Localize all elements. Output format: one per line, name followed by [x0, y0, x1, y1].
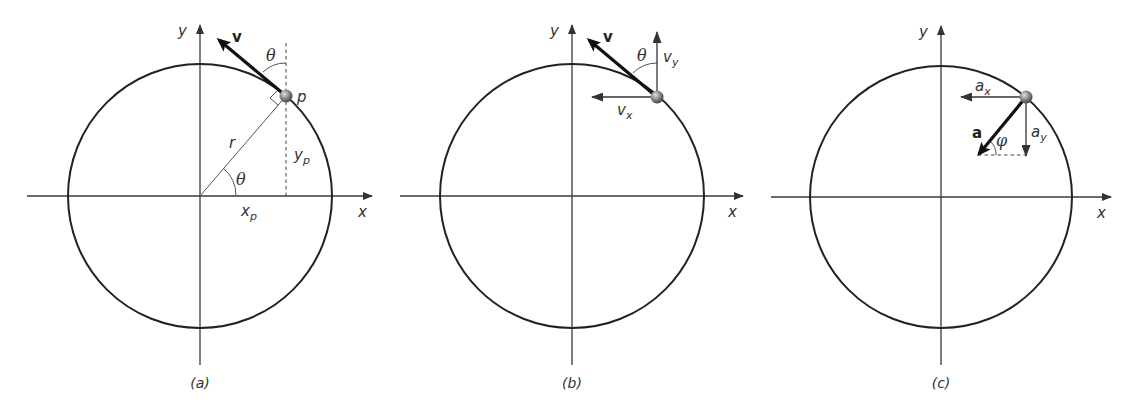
- radius-label: r: [229, 134, 236, 152]
- y-axis-label: y: [549, 22, 560, 40]
- particle-ball: [280, 90, 293, 103]
- y-axis-label: y: [177, 22, 188, 40]
- velocity-label: v: [603, 28, 613, 46]
- panel-b: y x v θ vy vx (b): [400, 22, 743, 391]
- x-axis-label: x: [1096, 204, 1106, 222]
- y-axis-label: y: [918, 23, 929, 41]
- point-label: p: [296, 88, 307, 106]
- xp-label: xp: [240, 202, 257, 223]
- vx-label: vx: [617, 101, 633, 122]
- particle-ball: [1020, 91, 1033, 104]
- velocity-label: v: [232, 28, 242, 46]
- x-axis-label: x: [357, 203, 367, 221]
- right-angle-marker: [270, 90, 278, 105]
- vy-label: vy: [663, 48, 679, 69]
- theta-arc-center: [223, 168, 236, 196]
- panel-a-caption: (a): [190, 375, 210, 391]
- acceleration-label: a: [972, 124, 982, 142]
- panel-c-caption: (c): [932, 375, 951, 391]
- ax-label: ax: [975, 77, 991, 98]
- theta-center-label: θ: [236, 170, 246, 189]
- theta-label: θ: [637, 46, 647, 65]
- theta-top-label: θ: [266, 46, 276, 65]
- velocity-vector: [589, 40, 657, 97]
- panel-c: y x ax a φ ay (c): [771, 23, 1111, 391]
- panel-b-caption: (b): [562, 375, 582, 391]
- yp-label: yp: [293, 146, 310, 167]
- x-axis-label: x: [727, 203, 737, 221]
- panel-a: y x v θ p r θ yp xp (a): [27, 22, 372, 391]
- ay-label: ay: [1031, 123, 1047, 144]
- circular-motion-figure: y x v θ p r θ yp xp (a) y x v θ vy vx (b…: [0, 0, 1130, 413]
- particle-ball: [651, 91, 664, 104]
- phi-label: φ: [996, 131, 1008, 150]
